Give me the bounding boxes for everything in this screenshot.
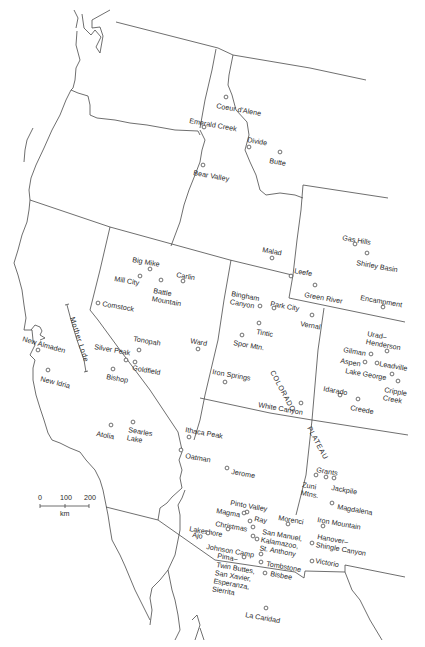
site-label: Vernal: [300, 319, 322, 331]
site-bishop: Bishop: [106, 367, 129, 385]
site-label: Spor Mtn.: [233, 338, 265, 352]
site-marker-icon: [310, 541, 314, 545]
site-shirley-basin: Shirley Basin: [356, 251, 399, 274]
site-bingham-canyon: BinghamCanyon: [229, 289, 262, 311]
site-white-canyon: White Canyon: [258, 400, 304, 417]
site-label: Lake George: [345, 366, 387, 382]
site-vernal: Vernal: [300, 313, 322, 331]
site-label: Bear Valley: [193, 168, 231, 183]
site-marker-icon: [226, 527, 230, 531]
site-marker-icon: [258, 304, 262, 308]
site-battle-mountain: BattleMountain: [151, 278, 183, 308]
site-comstock: Comstock: [96, 299, 135, 313]
site-label: Big Mike: [132, 255, 161, 269]
site-marker-icon: [224, 95, 228, 99]
site-label: Park City: [270, 299, 301, 313]
site-marker-icon: [299, 401, 303, 405]
site-marker-icon: [179, 448, 183, 452]
site-kalamazoo-secondary: [255, 537, 259, 541]
scale-tick-0: 0: [38, 493, 42, 502]
site-label: SearlesLake: [126, 425, 153, 446]
site-morenci: Morenci: [278, 513, 305, 526]
site-marker-icon: [310, 559, 314, 563]
site-mill-city: Mill City: [114, 274, 142, 287]
site-marker-icon: [201, 163, 205, 167]
site-marker-icon: [242, 555, 246, 559]
site-marker-icon: [356, 397, 360, 401]
site-label: Victorio: [315, 556, 340, 569]
site-jerome: Jerome: [225, 466, 256, 480]
site-leadville: Leadville: [375, 359, 408, 373]
site-iron-springs: Iron Springs: [212, 367, 252, 384]
site-coeur-d-alene: Coeur d'Alene: [216, 95, 262, 118]
site-marker-icon: [36, 348, 40, 352]
site-label: Twin Buttes,San Xavier,Esperanza,Sierrit…: [211, 560, 255, 600]
site-marker-icon: [223, 380, 227, 384]
site-marker-icon: [396, 379, 400, 383]
mother-lode-tick-top: [65, 304, 69, 305]
site-silver-peak: Silver Peak: [94, 342, 132, 362]
site-marker-icon: [96, 301, 100, 305]
site-label: Ajo: [192, 530, 204, 541]
scale-bar: 0 100 200 km: [38, 493, 96, 518]
site-la-caridad: La Caridad: [245, 606, 281, 625]
site-label: Carlin: [176, 270, 196, 282]
scale-tick-200: 200: [84, 493, 96, 502]
site-marker-icon: [257, 321, 261, 325]
site-label: ZuniMtns.: [300, 480, 320, 500]
site-label: Goldfield: [132, 363, 162, 377]
site-label: La Caridad: [245, 610, 281, 625]
site-tintic: Tintic: [256, 321, 275, 339]
mining-districts-map: COLORADOPLATEAUMother Lode Coeur d'Alene…: [0, 0, 425, 647]
site-marker-icon: [111, 367, 115, 371]
site-tonopah: Tonopah: [133, 334, 162, 352]
site-label: Magdalena: [337, 502, 374, 517]
site-label: Creede: [350, 403, 375, 416]
site-marker-icon: [137, 348, 141, 352]
site-label: San Manuel,Kalamazoo,St. Anthony: [259, 527, 303, 559]
site-label: BattleMountain: [151, 286, 183, 308]
site-butte: Butte: [269, 150, 287, 168]
site-label: Jerome: [231, 467, 256, 480]
site-ithaca-peak: Ithaca Peak: [185, 425, 224, 441]
site-label: Ward: [190, 336, 208, 348]
site-victorio: Victorio: [310, 556, 340, 569]
site-carlin: Carlin: [176, 270, 196, 283]
site-creede: Creede: [350, 397, 375, 416]
site-marker-icon: [369, 352, 373, 356]
site-label: Bishop: [106, 372, 129, 385]
site-marker-icon: [148, 267, 152, 271]
site-label: Idarado: [323, 384, 349, 397]
site-marker-icon: [131, 420, 135, 424]
site-encampment: Encampment: [360, 293, 403, 309]
site-marker-icon: [259, 560, 263, 564]
mother-lode-tick-bottom: [84, 371, 88, 372]
region-label-mother-lode: Mother Lode: [68, 316, 91, 363]
mining-sites: Coeur d'AleneEmerald CreekDivideButteBea…: [21, 95, 408, 625]
site-label: Leadville: [379, 359, 409, 373]
site-gilman: Gilman: [343, 345, 373, 358]
site-label: White Canyon: [258, 400, 304, 417]
site-marker-icon: [259, 552, 263, 556]
site-label: Silver Peak: [94, 342, 132, 357]
site-label: Butte: [269, 156, 287, 168]
site-marker-icon: [324, 475, 328, 479]
site-label: Tonopah: [133, 334, 162, 348]
site-twin-buttes-san-xavier-esperanza-sierrita: Twin Buttes,San Xavier,Esperanza,Sierrit…: [211, 560, 255, 600]
site-magdalena: Magdalena: [330, 501, 373, 517]
site-marker-icon: [206, 531, 210, 535]
site-marker-icon: [46, 368, 50, 372]
site-marker-icon: [242, 511, 246, 515]
site-label: Ray: [254, 514, 269, 525]
site-label: Coeur d'Alene: [216, 101, 262, 118]
site-marker-icon: [240, 333, 244, 337]
site-label: Hanover–Shingle Canyon: [315, 532, 368, 558]
site-marker-icon: [365, 251, 369, 255]
site-label: Iron Mountain: [317, 515, 362, 531]
site-goldfield: Goldfield: [132, 360, 162, 377]
scale-tick-100: 100: [60, 493, 72, 502]
site-label: Morenci: [278, 513, 305, 526]
site-label: Leefe: [294, 266, 313, 278]
site-urad-henderson: Urad–Henderson: [365, 329, 403, 353]
site-jackpile: Jackpile: [331, 476, 358, 496]
